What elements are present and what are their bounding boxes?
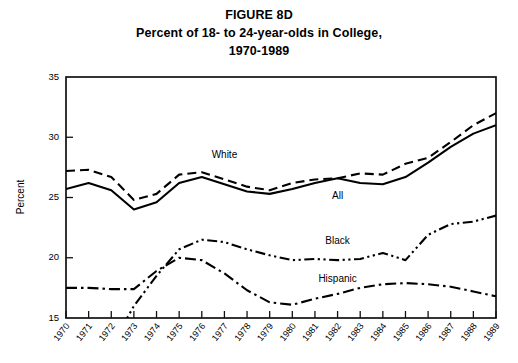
x-axis: 1970197119721973197419751976197719781979… <box>51 311 501 343</box>
x-tick-label: 1985 <box>391 321 411 343</box>
x-tick-label: 1986 <box>413 321 433 343</box>
y-tick-label: 15 <box>48 312 59 323</box>
series-line-white <box>66 113 496 200</box>
series-line-black <box>111 216 496 347</box>
x-tick-label: 1975 <box>165 321 185 343</box>
series-label-white: White <box>212 149 238 160</box>
x-tick-label: 1979 <box>255 321 275 343</box>
series-label-all: All <box>332 190 343 201</box>
x-tick-label: 1983 <box>346 321 366 343</box>
x-tick-label: 1982 <box>323 321 343 343</box>
x-tick-label: 1981 <box>300 321 320 343</box>
x-tick-label: 1974 <box>142 321 162 343</box>
x-tick-label: 1978 <box>232 321 252 343</box>
x-tick-label: 1972 <box>97 321 117 343</box>
figure-8d: FIGURE 8D Percent of 18- to 24-year-olds… <box>0 0 518 363</box>
series-labels: WhiteAllBlackHispanic <box>212 149 357 284</box>
x-tick-label: 1989 <box>481 321 501 343</box>
x-tick-label: 1987 <box>436 321 456 343</box>
y-tick-label: 30 <box>48 131 59 142</box>
x-tick-label: 1970 <box>51 321 71 343</box>
series-label-hispanic: Hispanic <box>318 273 356 284</box>
series-label-black: Black <box>325 235 350 246</box>
x-tick-label: 1973 <box>119 321 139 343</box>
y-tick-label: 25 <box>48 191 59 202</box>
x-tick-label: 1980 <box>278 321 298 343</box>
series-line-hispanic <box>66 258 496 305</box>
line-chart: 1520253035 19701971197219731974197519761… <box>0 0 518 363</box>
y-axis: 1520253035 <box>48 71 73 323</box>
y-tick-label: 20 <box>48 251 59 262</box>
y-tick-label: 35 <box>48 71 59 82</box>
x-tick-label: 1977 <box>210 321 230 343</box>
series-group <box>66 113 496 347</box>
x-tick-label: 1971 <box>74 321 94 343</box>
x-tick-label: 1984 <box>368 321 388 343</box>
y-axis-title: Percent <box>15 180 26 215</box>
x-tick-label: 1988 <box>459 321 479 343</box>
x-tick-label: 1976 <box>187 321 207 343</box>
